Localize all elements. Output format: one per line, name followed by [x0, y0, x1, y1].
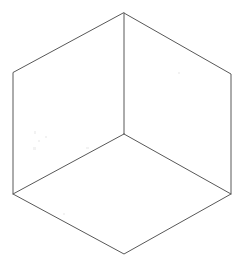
speckle	[33, 147, 36, 150]
speckle	[178, 72, 180, 74]
speckle	[86, 147, 89, 149]
spoke-to-lower-right	[124, 134, 231, 194]
speckle	[45, 136, 47, 138]
speckle	[63, 213, 65, 215]
spoke-to-lower-left	[13, 134, 124, 194]
hexagon-outline	[13, 13, 231, 254]
speckle	[38, 140, 40, 142]
speckle	[34, 131, 36, 134]
center-spokes-group	[13, 13, 231, 194]
hexagon-figure-svg: Hexagon with three center spokes (isomet…	[0, 0, 242, 265]
figure-canvas: Hexagon with three center spokes (isomet…	[0, 0, 242, 265]
hexagon-outline-group	[13, 13, 231, 254]
